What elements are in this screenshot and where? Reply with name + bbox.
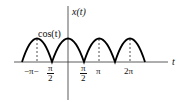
tick-half-pi: π 2 xyxy=(80,64,87,83)
tick-pi: π xyxy=(96,67,101,76)
abs-cos-curve xyxy=(22,39,145,63)
tick-neg-pi: −π− xyxy=(24,67,39,76)
y-axis-label: x(t) xyxy=(72,7,86,17)
x-axis-label: t xyxy=(172,57,175,67)
tick-neg-half-pi: π 2 xyxy=(47,64,54,83)
plot-canvas xyxy=(0,0,184,102)
tick-two-pi: 2π xyxy=(124,67,133,76)
curve-label: cos(t) xyxy=(38,29,61,39)
